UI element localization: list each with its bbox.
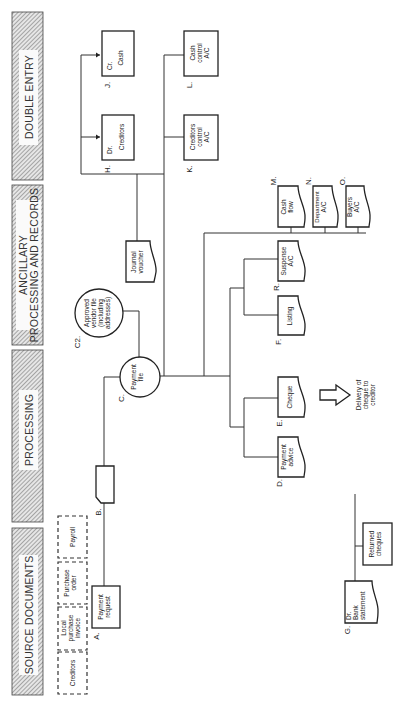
flowchart-diagram: DOUBLE ENTRY ANCILLARY PROCESSING AND RE… bbox=[0, 0, 416, 705]
svg-text:A/C: A/C bbox=[320, 201, 327, 212]
svg-text:cheques: cheques bbox=[375, 531, 383, 556]
svg-text:request: request bbox=[104, 596, 112, 618]
svg-text:A/C: A/C bbox=[353, 201, 360, 212]
node-listing: Listing F. bbox=[274, 296, 305, 345]
svg-text:Cash: Cash bbox=[117, 50, 124, 66]
svg-text:Creditors: Creditors bbox=[69, 659, 76, 686]
node-suspense-ac: Suspense A/C R. bbox=[272, 241, 305, 291]
svg-text:invoice: invoice bbox=[74, 617, 81, 638]
svg-text:Cash: Cash bbox=[280, 199, 287, 215]
node-cash: Cr. Cash J. bbox=[102, 31, 134, 88]
svg-text:Journal: Journal bbox=[130, 251, 137, 273]
node-bank-statement: Dr. Bank statement G. bbox=[343, 581, 378, 634]
node-journal-voucher: Journal voucher bbox=[126, 241, 156, 282]
svg-text:L.: L. bbox=[185, 82, 194, 89]
node-buyers-ac: Buyers A/C O. bbox=[338, 177, 370, 227]
svg-text:A.: A. bbox=[92, 632, 101, 640]
node-payment-request: Payment request A. bbox=[92, 586, 120, 640]
node-cash-flow: Cash flow M. bbox=[269, 177, 305, 227]
svg-text:Creditors: Creditors bbox=[118, 123, 125, 150]
svg-text:H.: H. bbox=[103, 165, 112, 173]
svg-text:Listing: Listing bbox=[286, 306, 294, 325]
svg-text:Dr.: Dr. bbox=[345, 612, 352, 621]
svg-text:Payroll: Payroll bbox=[69, 527, 77, 547]
svg-text:control: control bbox=[196, 43, 203, 63]
svg-text:statement: statement bbox=[359, 591, 366, 620]
node-creditors-control: Creditors control A/C K. bbox=[184, 115, 218, 173]
svg-text:Purchase: Purchase bbox=[63, 569, 70, 597]
svg-text:Dr.: Dr. bbox=[106, 146, 113, 155]
svg-text:M.: M. bbox=[269, 177, 278, 186]
node-cash-control: Cash control A/C L. bbox=[184, 31, 218, 88]
node-creditors: Dr. Creditors H. bbox=[102, 115, 134, 173]
svg-text:O.: O. bbox=[338, 177, 347, 185]
svg-text:C2.: C2. bbox=[73, 336, 82, 348]
header-label-processing: PROCESSING bbox=[23, 394, 35, 466]
svg-text:flow: flow bbox=[287, 201, 294, 213]
svg-text:A/C: A/C bbox=[203, 47, 210, 58]
svg-text:advice: advice bbox=[287, 447, 294, 466]
svg-text:G.: G. bbox=[343, 626, 352, 634]
source-local-purchase-invoice: Local purchase invoice bbox=[58, 607, 87, 650]
node-department-ac: Department A/C N. bbox=[304, 177, 338, 227]
node-approved-vendor-file: Approved vendor file (including addresse… bbox=[73, 289, 123, 348]
svg-text:Local: Local bbox=[60, 620, 67, 636]
svg-text:R.: R. bbox=[272, 283, 281, 291]
header-label-ancillary-2: PROCESSING AND RECORDS bbox=[28, 188, 40, 342]
svg-text:F.: F. bbox=[274, 339, 283, 345]
svg-text:J.: J. bbox=[103, 82, 112, 88]
svg-text:N.: N. bbox=[304, 177, 313, 185]
svg-text:vendor file: vendor file bbox=[90, 298, 97, 328]
svg-text:file: file bbox=[137, 372, 144, 381]
svg-text:voucher: voucher bbox=[137, 250, 144, 274]
svg-text:A/C: A/C bbox=[203, 131, 210, 142]
node-payment-file: Payment file C. bbox=[117, 357, 160, 402]
svg-text:E.: E. bbox=[275, 419, 284, 427]
svg-text:creditor: creditor bbox=[369, 383, 376, 406]
svg-text:Bank: Bank bbox=[352, 604, 359, 620]
svg-text:K.: K. bbox=[185, 165, 194, 173]
svg-text:Cr.: Cr. bbox=[106, 62, 113, 71]
svg-text:addresses): addresses) bbox=[104, 297, 112, 329]
source-purchase-order: Purchase order bbox=[58, 562, 87, 604]
delivery-arrow-icon bbox=[320, 385, 350, 405]
header-band: DOUBLE ENTRY ANCILLARY PROCESSING AND RE… bbox=[12, 12, 43, 695]
svg-text:Cash: Cash bbox=[189, 45, 196, 61]
svg-text:Returned: Returned bbox=[368, 530, 375, 557]
svg-text:D.: D. bbox=[275, 479, 284, 487]
svg-text:Creditors: Creditors bbox=[189, 123, 196, 150]
header-label-source-documents: SOURCE DOCUMENTS bbox=[23, 556, 35, 675]
node-payment-advice: Payment advice D. bbox=[275, 437, 305, 487]
node-returned-cheques: Returned cheques bbox=[363, 523, 392, 565]
svg-text:A/C: A/C bbox=[287, 255, 294, 266]
svg-text:Cheque: Cheque bbox=[286, 385, 294, 408]
delivery-label: Delivery of cheque to creditor bbox=[355, 379, 376, 410]
header-label-double-entry: DOUBLE ENTRY bbox=[23, 55, 35, 139]
svg-text:C.: C. bbox=[117, 394, 126, 402]
svg-text:B.: B. bbox=[94, 508, 103, 516]
source-creditors: Creditors bbox=[58, 652, 87, 694]
source-payroll: Payroll bbox=[58, 516, 87, 558]
svg-text:order: order bbox=[70, 575, 77, 591]
svg-text:control: control bbox=[196, 127, 203, 147]
node-cheque: Cheque E. bbox=[275, 377, 305, 427]
